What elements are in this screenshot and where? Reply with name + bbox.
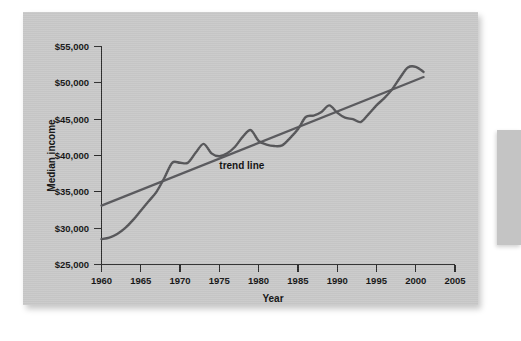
y-tick-label: $35,000: [55, 186, 89, 197]
x-tick-label: 1980: [248, 275, 269, 286]
x-tick-labels-group: 1960 1965 1970 1975 1980 1985 1990 1995 …: [91, 275, 466, 286]
page-edge-strip: [497, 130, 521, 245]
x-tick-label: 1975: [209, 275, 231, 286]
y-tick-label: $45,000: [55, 114, 89, 125]
y-tick-label: $25,000: [55, 259, 89, 270]
x-tick-label: 1965: [130, 275, 152, 286]
y-tick-label: $50,000: [55, 77, 89, 88]
trend-line-path: [102, 77, 424, 206]
y-tick-label: $30,000: [55, 223, 89, 234]
y-ticks-group: [94, 47, 101, 265]
y-tick-label: $55,000: [55, 41, 89, 52]
y-axis-title: Median income: [46, 119, 57, 192]
x-tick-label: 2005: [444, 275, 466, 286]
income-series-path: [102, 66, 424, 239]
x-tick-label: 1970: [170, 275, 191, 286]
y-tick-labels-group: $55,000 $50,000 $45,000 $40,000 $35,000 …: [55, 41, 89, 270]
x-ticks-group: [102, 265, 456, 272]
x-tick-label: 2000: [405, 275, 426, 286]
figure-card: $55,000 $50,000 $45,000 $40,000 $35,000 …: [23, 12, 478, 305]
x-axis-title: Year: [262, 293, 283, 304]
x-tick-label: 1960: [91, 275, 112, 286]
x-tick-label: 1990: [327, 275, 348, 286]
x-tick-label: 1985: [287, 275, 309, 286]
trend-line-annotation: trend line: [219, 160, 264, 171]
axes-group: [102, 46, 456, 265]
y-tick-label: $40,000: [55, 150, 89, 161]
x-tick-label: 1995: [366, 275, 388, 286]
line-chart: $55,000 $50,000 $45,000 $40,000 $35,000 …: [23, 12, 478, 305]
